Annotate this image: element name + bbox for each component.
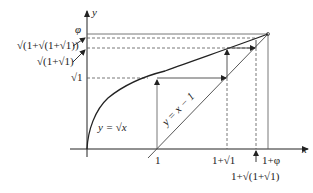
x-tick-1plusphi: 1+φ bbox=[262, 155, 280, 166]
y-axis-label: y bbox=[92, 7, 97, 18]
y-tick-nested1: √(1+√1) bbox=[37, 56, 74, 67]
pointer-nested1 bbox=[73, 50, 85, 62]
x-tick-1plusroot1: 1+√1 bbox=[212, 155, 235, 166]
y-tick-phi: φ bbox=[75, 24, 81, 35]
y-tick-nested2: √(1+√(1+√1)) bbox=[17, 40, 79, 51]
sqrt-curve-label: y = √x bbox=[98, 122, 127, 133]
line-x-minus-1 bbox=[148, 34, 268, 158]
x-axis-label: x bbox=[302, 144, 307, 155]
x-tick-one: 1 bbox=[155, 155, 161, 166]
x-tick-1plusnested: 1+√(1+√1) bbox=[231, 171, 279, 182]
y-tick-root1: √1 bbox=[71, 72, 83, 83]
